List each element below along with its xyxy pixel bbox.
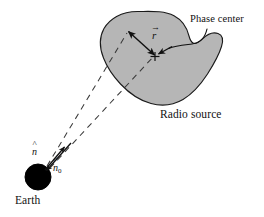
n0-hat-label: ^n0: [53, 163, 62, 175]
r-vector-label: →r: [152, 30, 156, 41]
diagram-canvas: [0, 0, 264, 217]
phase-center-label: Phase center: [190, 14, 244, 25]
radio-source-label: Radio source: [160, 109, 222, 121]
radio-source-blob: [100, 11, 222, 105]
n-hat-accent: ^: [32, 140, 37, 149]
n-hat-label: ^n: [32, 147, 37, 157]
n0-hat-subscript: 0: [58, 167, 62, 175]
earth-label: Earth: [15, 195, 40, 207]
radio-source-diagram: Phase center Radio source Earth →r ^n ^n…: [0, 0, 264, 217]
r-vector-accent: →: [151, 23, 157, 32]
n0-hat-accent: ^: [53, 156, 58, 165]
